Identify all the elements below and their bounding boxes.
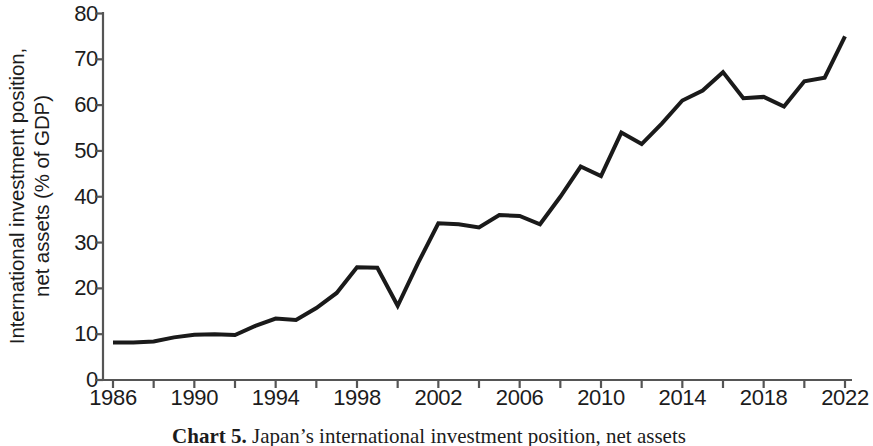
axes (103, 12, 852, 381)
data-series-group (113, 36, 845, 342)
y-axis-ticks (95, 14, 103, 381)
x-axis-ticks (113, 380, 845, 388)
figure-caption: Chart 5. Japan’s international investmen… (0, 424, 858, 446)
caption-text: Japan’s international investment positio… (252, 424, 686, 446)
caption-label: Chart 5. (172, 424, 247, 446)
data-series-line (113, 36, 845, 342)
